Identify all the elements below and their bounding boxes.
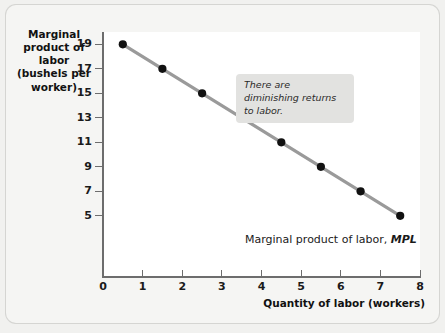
y-tick-label-text: 9 <box>64 161 92 172</box>
x-tick-label: 6 <box>329 280 353 294</box>
y-tick-mark <box>95 215 102 216</box>
series-inline-label: Marginal product of labor, MPL <box>245 233 417 246</box>
y-tick-mark <box>95 44 102 45</box>
y-tick-label: 5 <box>60 210 92 221</box>
y-tick-label-text: 19 <box>64 38 92 49</box>
x-tick-mark <box>221 270 222 277</box>
x-tick-label-text: 0 <box>91 280 115 293</box>
x-tick-label-text: 2 <box>170 280 194 293</box>
series-label-prefix: Marginal product of labor, <box>245 233 391 246</box>
x-tick-label: 2 <box>170 280 194 294</box>
x-tick-mark <box>380 270 381 277</box>
y-tick-mark <box>95 93 102 94</box>
x-tick-mark <box>182 270 183 277</box>
y-tick-label: 17 <box>60 63 92 74</box>
x-tick-label-text: 3 <box>210 280 234 293</box>
x-tick-mark <box>420 270 421 277</box>
y-tick-label: 19 <box>60 38 92 49</box>
x-tick-label: 8 <box>408 280 432 294</box>
y-tick-label-text: 15 <box>64 87 92 98</box>
series-label-symbol: MPL <box>391 233 417 246</box>
x-tick-label-text: 4 <box>250 280 274 293</box>
y-tick-label: 13 <box>60 112 92 123</box>
x-tick-label-text: 7 <box>368 280 392 293</box>
y-tick-mark <box>95 166 102 167</box>
x-tick-label-text: 5 <box>289 280 313 293</box>
y-tick-mark <box>95 117 102 118</box>
x-tick-mark <box>261 270 262 277</box>
y-tick-label: 9 <box>60 161 92 172</box>
x-tick-mark <box>301 270 302 277</box>
y-axis-line <box>102 32 104 278</box>
x-tick-label-text: 6 <box>329 280 353 293</box>
annotation-diminishing-returns: There are diminishing returns to labor. <box>236 74 354 123</box>
y-tick-label: 15 <box>60 87 92 98</box>
x-tick-label: 4 <box>250 280 274 294</box>
y-tick-label-text: 7 <box>64 185 92 196</box>
y-tick-label: 7 <box>60 185 92 196</box>
x-axis-title: Quantity of labor (workers) <box>225 297 425 309</box>
y-tick-label: 11 <box>60 136 92 147</box>
x-tick-label-text: 8 <box>408 280 432 293</box>
x-tick-mark <box>142 270 143 277</box>
y-tick-label-text: 11 <box>64 136 92 147</box>
y-tick-label-text: 13 <box>64 112 92 123</box>
y-tick-label-text: 17 <box>64 63 92 74</box>
x-tick-label: 3 <box>210 280 234 294</box>
x-tick-label: 5 <box>289 280 313 294</box>
x-tick-label: 7 <box>368 280 392 294</box>
x-tick-label: 1 <box>131 280 155 294</box>
y-tick-mark <box>95 191 102 192</box>
x-tick-label-text: 1 <box>131 280 155 293</box>
y-tick-mark <box>95 68 102 69</box>
y-tick-label-text: 5 <box>64 210 92 221</box>
x-tick-label: 0 <box>91 280 115 294</box>
figure-container: Marginal product of labor (bushels per w… <box>0 0 445 333</box>
x-tick-mark <box>340 270 341 277</box>
y-tick-mark <box>95 142 102 143</box>
